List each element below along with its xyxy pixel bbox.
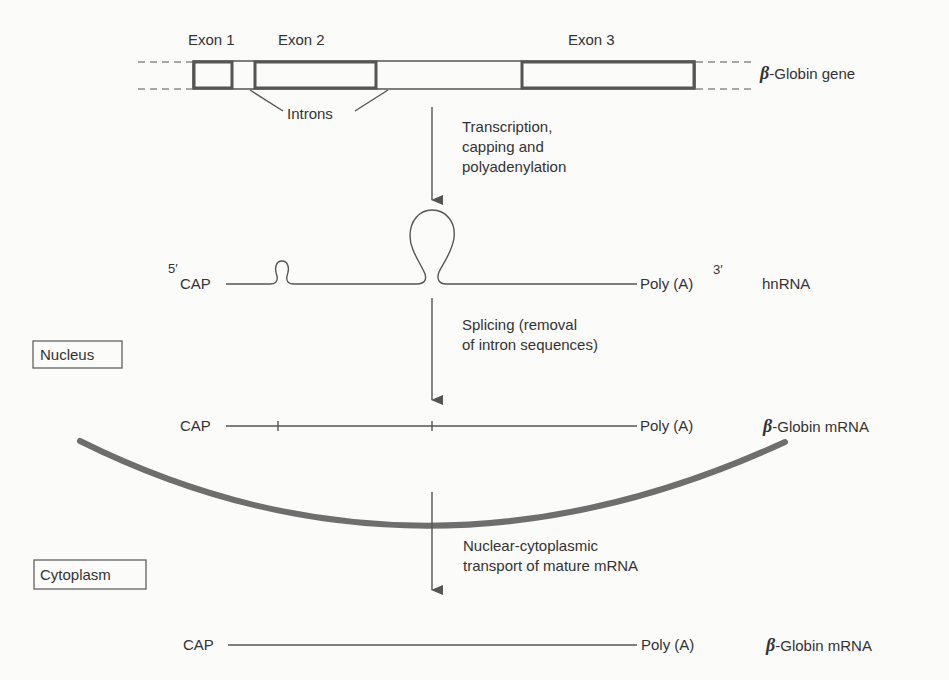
splicing-line-1: Splicing (removal [462,316,577,333]
hnrna-label: hnRNA [762,275,810,292]
hnrna-poly-a-label: Poly (A) [640,275,693,292]
transport-line-1: Nuclear-cytoplasmic [463,537,599,554]
beta-globin-gene: Exon 1 Exon 2 Exon 3 Introns β-Globin ge… [138,31,855,122]
nuclear-mrna-cap-label: CAP [180,417,211,434]
cyto-mrna-label: β-Globin mRNA [765,635,872,655]
gene-label: β-Globin gene [759,63,855,83]
transport-line-2: transport of mature mRNA [463,557,638,574]
splicing-step-label: Splicing (removal of intron sequences) [462,316,598,353]
nuclear-mrna-poly-a-label: Poly (A) [640,417,693,434]
intron-2-pointer [355,90,388,111]
cytoplasm-label: Cytoplasm [40,566,111,583]
exon-3-box [522,62,694,88]
nucleus-label: Nucleus [40,346,94,363]
exon-2-label: Exon 2 [278,31,325,48]
intron-1-pointer [250,90,283,111]
nucleus-compartment-label: Nucleus [33,341,122,368]
transcription-line-1: Transcription, [462,118,552,135]
hnrna-molecule: 5′ CAP Poly (A) 3′ hnRNA [168,210,810,292]
nuclear-mrna-label: β-Globin mRNA [762,416,869,436]
exon-1-label: Exon 1 [188,31,235,48]
hnrna-cap-label: CAP [180,275,211,292]
cytoplasm-compartment-label: Cytoplasm [34,560,146,589]
exon-1-box [194,62,232,88]
transport-step-label: Nuclear-cytoplasmic transport of mature … [463,537,638,574]
cytoplasmic-mrna-molecule: CAP Poly (A) β-Globin mRNA [183,635,872,655]
nuclear-mrna-name: -Globin mRNA [772,418,869,435]
gene-expression-diagram: Exon 1 Exon 2 Exon 3 Introns β-Globin ge… [0,0,949,680]
exon-2-box [255,62,376,88]
cyto-mrna-name: -Globin mRNA [775,637,872,654]
transcription-step-label: Transcription, capping and polyadenylati… [462,118,566,175]
hnrna-strand-with-intron-loops [226,210,637,284]
gene-name: -Globin gene [769,65,855,82]
five-prime-label: 5′ [168,261,178,276]
splicing-line-2: of intron sequences) [462,336,598,353]
cyto-mrna-poly-a-label: Poly (A) [641,636,694,653]
three-prime-label: 3′ [713,262,723,277]
nuclear-mrna-molecule: CAP Poly (A) β-Globin mRNA [180,416,869,436]
introns-label: Introns [287,105,333,122]
exon-3-label: Exon 3 [568,31,615,48]
cyto-mrna-cap-label: CAP [183,636,214,653]
transcription-line-3: polyadenylation [462,158,566,175]
transcription-line-2: capping and [462,138,544,155]
